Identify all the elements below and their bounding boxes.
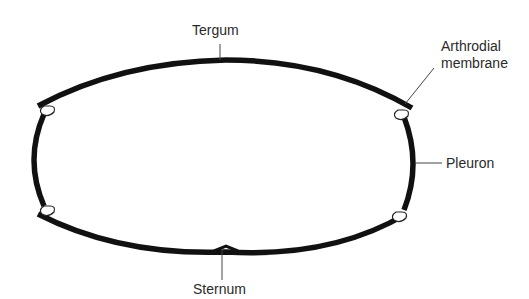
arthrodial-membrane-bottom-left	[40, 206, 54, 216]
pleuron-label: Pleuron	[446, 155, 494, 172]
tergum-label: Tergum	[192, 22, 239, 39]
sternum-label: Sternum	[193, 281, 246, 298]
segment-cross-section-diagram: Tergum Arthrodial membrane Pleuron Stern…	[0, 0, 529, 299]
arthrodial-membrane-bottom-right	[392, 212, 406, 222]
arthrodial-leader	[405, 68, 434, 104]
arthrodial-membrane-label-line2: membrane	[441, 55, 508, 72]
arthrodial-membrane-top-left	[40, 106, 54, 116]
arthrodial-membrane-label-line1: Arthrodial	[441, 38, 501, 55]
pleuron-right-plate	[404, 117, 413, 210]
pleuron-left-plate	[34, 114, 44, 206]
tergum-plate	[38, 60, 412, 108]
arthrodial-membrane-top-right	[394, 110, 408, 120]
